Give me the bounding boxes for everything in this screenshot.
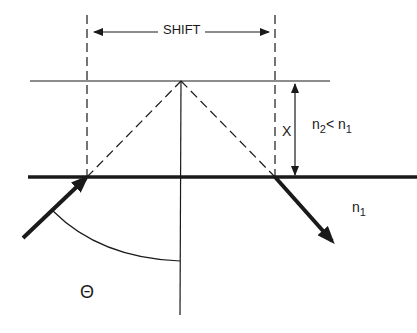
incident-ray-arrow [23, 178, 86, 238]
less-than-symbol: < [326, 116, 334, 132]
normal-line [180, 81, 181, 315]
reflected-ray-arrow [275, 177, 332, 241]
dashed-incident-path [87, 81, 181, 177]
medium-n-subscript: 1 [360, 206, 366, 218]
n2-subscript: 2 [320, 123, 326, 135]
medium-n1-label: n1 [352, 200, 366, 214]
angle-arc [53, 211, 180, 261]
n2-symbol: n [312, 116, 320, 132]
medium-n-symbol: n [352, 199, 360, 215]
dashed-reflected-path [181, 81, 275, 177]
refractive-index-relation: n2< n1 [312, 117, 352, 131]
n1-symbol: n [338, 116, 346, 132]
n1-subscript: 1 [346, 123, 352, 135]
x-label: X [282, 124, 291, 138]
angle-theta-label: Θ [80, 283, 94, 301]
shift-label: SHIFT [160, 23, 204, 36]
diagram-canvas [0, 0, 417, 333]
